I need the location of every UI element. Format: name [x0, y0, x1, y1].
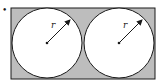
bullet-marker: • [2, 5, 7, 15]
radius-label: r [51, 20, 56, 30]
radius-label: r [123, 20, 128, 30]
circle-right: r [84, 8, 154, 78]
circle-left: r [12, 8, 82, 78]
diagram: • r r [0, 0, 158, 83]
